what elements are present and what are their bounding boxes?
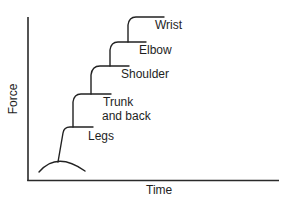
y-axis-label: Force: [6, 83, 20, 114]
legs-label: Legs: [88, 129, 114, 143]
trunk-label-line1: Trunk: [103, 95, 134, 109]
force-time-diagram: Force Time Legs Trunk and back Shoulder …: [0, 0, 293, 206]
ground-arc: [39, 161, 85, 172]
wrist-label: Wrist: [155, 18, 183, 32]
shoulder-label: Shoulder: [121, 67, 169, 81]
x-axis-label: Time: [146, 183, 173, 197]
elbow-label: Elbow: [139, 43, 172, 57]
trunk-label-line2: and back: [102, 109, 152, 123]
